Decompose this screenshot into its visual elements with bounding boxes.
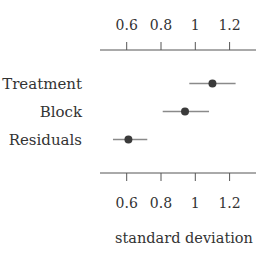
top-x-axis: 0.60.811.2 — [100, 17, 256, 50]
row-treatment: Treatment — [2, 75, 235, 93]
row-label: Block — [40, 103, 83, 121]
row-label: Residuals — [9, 131, 82, 149]
top-tick-label: 1 — [191, 17, 200, 33]
estimate-point — [208, 80, 216, 88]
bottom-tick-label: 0.8 — [150, 195, 172, 211]
bottom-tick-label: 0.6 — [116, 195, 138, 211]
estimate-point — [124, 136, 132, 144]
estimate-point — [181, 108, 189, 116]
bottom-tick-label: 1 — [191, 195, 200, 211]
plot-rows: TreatmentBlockResiduals — [2, 75, 235, 149]
top-tick-label: 0.8 — [150, 17, 172, 33]
x-axis-title: standard deviation — [115, 230, 253, 246]
top-tick-label: 0.6 — [116, 17, 138, 33]
bottom-tick-label: 1.2 — [218, 195, 240, 211]
chart: 0.60.811.2 TreatmentBlockResiduals 0.60.… — [0, 0, 271, 254]
top-tick-label: 1.2 — [218, 17, 240, 33]
row-label: Treatment — [2, 75, 82, 93]
bottom-x-axis: 0.60.811.2 — [100, 173, 256, 211]
row-block: Block — [40, 103, 209, 121]
row-residuals: Residuals — [9, 131, 148, 149]
